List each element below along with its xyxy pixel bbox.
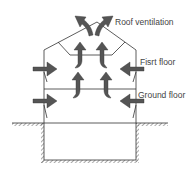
arrow-right-icon [33,94,57,108]
label-first-floor: Fisrt floor [140,58,175,67]
label-ground-floor: Ground floor [138,91,185,100]
arrow-up-left-icon [75,16,93,36]
inlet-arrows [33,62,144,108]
label-roof-ventilation: Roof ventilation [115,18,174,27]
rising-arrows [72,42,112,98]
arrow-right-icon [33,62,57,76]
arrow-up-icon [72,72,84,98]
arrow-up-right-icon [95,16,113,36]
ground-hatching [12,123,168,163]
arrow-up-icon [100,72,112,98]
roof-arrows [75,16,113,36]
